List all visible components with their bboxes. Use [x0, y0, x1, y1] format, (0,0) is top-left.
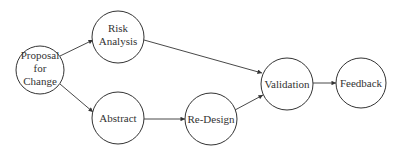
node-label: Abstract [99, 112, 136, 124]
node-label: for [34, 62, 47, 74]
edge-redesign-to-validation [235, 95, 263, 110]
edge-risk-to-validation [144, 40, 262, 73]
node-label: Feedback [340, 77, 383, 89]
node-re-design: Re-Design [185, 93, 237, 145]
node-proposal-for-change: Proposal for Change [16, 46, 64, 94]
node-label: Change [23, 75, 57, 87]
flow-diagram: Proposal for Change Risk Analysis Abstra… [0, 0, 402, 147]
node-label: Risk [108, 22, 129, 34]
node-label: Validation [264, 78, 310, 90]
node-label: Analysis [99, 35, 138, 47]
node-risk-analysis: Risk Analysis [92, 11, 144, 63]
node-feedback: Feedback [336, 58, 386, 108]
node-label: Proposal [21, 49, 60, 61]
edge-proposal-to-risk [60, 40, 93, 56]
edge-proposal-to-abstract [60, 84, 93, 112]
node-validation: Validation [261, 58, 313, 110]
node-abstract: Abstract [92, 92, 144, 144]
node-label: Re-Design [187, 113, 235, 125]
